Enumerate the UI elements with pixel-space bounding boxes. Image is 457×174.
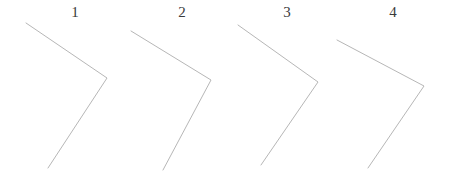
angle-figure-3-polyline [238, 25, 318, 165]
angle-label-2: 2 [171, 5, 193, 20]
angle-label-4: 4 [382, 5, 404, 20]
angle-figure-4-polyline [337, 40, 424, 168]
angle-label-1: 1 [64, 5, 86, 20]
angle-figure-2-polyline [131, 31, 211, 170]
angle-figure-sheet: 1 2 3 4 [0, 0, 457, 174]
angle-diagram-canvas [0, 0, 457, 174]
angle-figure-1-polyline [26, 23, 107, 168]
angle-label-3: 3 [276, 5, 298, 20]
